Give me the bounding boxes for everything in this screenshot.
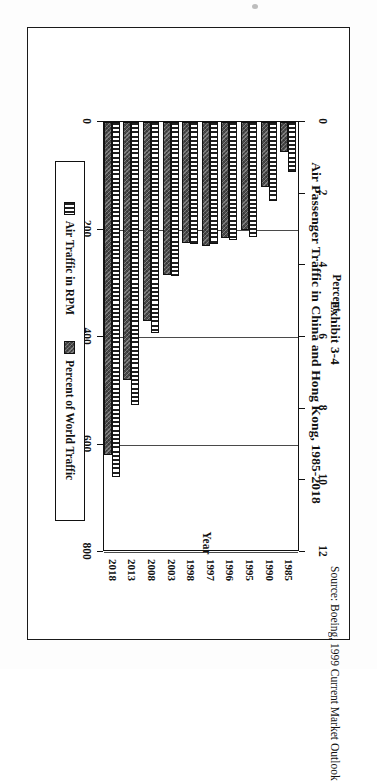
figure-frame: Exhibit 3-4 Air Passenger Traffic in Chi… — [27, 27, 350, 640]
figure-landscape-content: Exhibit 3-4 Air Passenger Traffic in Chi… — [30, 34, 348, 634]
category-label: 2018 — [107, 560, 119, 582]
bar-air-traffic-rpm — [250, 123, 258, 238]
axis-tick — [300, 552, 306, 553]
category-label: 2013 — [127, 560, 139, 582]
bar-percent-world-traffic — [261, 123, 269, 188]
bar-air-traffic-rpm — [191, 123, 199, 245]
bar-air-traffic-rpm — [171, 123, 179, 277]
bar-group — [163, 123, 179, 551]
bar-percent-world-traffic — [281, 123, 289, 153]
axis-tick — [300, 408, 306, 409]
percent-tick-label: 8 — [318, 405, 330, 411]
bar-percent-world-traffic — [183, 123, 191, 244]
legend-label-percent: Percent of World Traffic — [65, 361, 77, 481]
bar-air-traffic-rpm — [269, 123, 277, 202]
percent-tick-label: 12 — [318, 546, 330, 558]
axis-tick — [98, 122, 104, 123]
chart-legend: Air Traffic in RPM Percent of World Traf… — [56, 162, 86, 522]
legend-swatch-percent-icon — [65, 342, 76, 355]
axis-tick — [300, 193, 306, 194]
bar-group — [241, 123, 257, 551]
plot-area — [104, 122, 300, 552]
bar-group — [124, 123, 140, 551]
percent-tick-label: 0 — [318, 119, 330, 125]
category-label: 1985 — [284, 560, 296, 582]
bar-group — [104, 123, 120, 551]
bar-group — [222, 123, 238, 551]
percent-tick-label: 6 — [318, 334, 330, 340]
category-label: 1995 — [245, 560, 257, 582]
scan-speck — [252, 4, 258, 9]
legend-swatch-rpm-icon — [65, 202, 76, 215]
bar-percent-world-traffic — [163, 123, 171, 276]
bar-air-traffic-rpm — [230, 123, 238, 241]
axis-tick — [300, 480, 306, 481]
category-label: 1998 — [186, 560, 198, 582]
axis-tick — [300, 122, 306, 123]
bar-group — [143, 123, 159, 551]
axis-tick — [98, 444, 104, 445]
bar-air-traffic-rpm — [289, 123, 297, 173]
x-axis-title: Year — [202, 504, 214, 584]
percent-axis-ticks — [300, 122, 314, 552]
bar-air-traffic-rpm — [152, 123, 160, 334]
bar-air-traffic-rpm — [132, 123, 140, 406]
rpk-tick-label: 0 — [82, 119, 94, 125]
bar-percent-world-traffic — [143, 123, 151, 322]
category-label: 2003 — [166, 560, 178, 582]
category-label: 1990 — [264, 560, 276, 582]
axis-tick — [98, 229, 104, 230]
bar-percent-world-traffic — [202, 123, 210, 247]
category-label: 1996 — [225, 560, 237, 582]
bar-percent-world-traffic — [241, 123, 249, 231]
bar-group — [202, 123, 218, 551]
axis-tick — [98, 337, 104, 338]
legend-item-percent: Percent of World Traffic — [65, 342, 77, 481]
bar-group — [281, 123, 297, 551]
axis-tick — [300, 337, 306, 338]
bar-series-container — [105, 123, 299, 551]
bar-percent-world-traffic — [222, 123, 230, 239]
bar-percent-world-traffic — [124, 123, 132, 381]
percent-tick-label: 2 — [318, 190, 330, 196]
percent-tick-label: 4 — [318, 262, 330, 268]
category-label: 2008 — [147, 560, 159, 582]
bar-air-traffic-rpm — [112, 123, 120, 478]
rpk-tick-label: 800 — [82, 543, 94, 560]
axis-tick — [98, 552, 104, 553]
bar-air-traffic-rpm — [210, 123, 218, 245]
bar-group — [261, 123, 277, 551]
source-note: Source: Boeing, 1999 Current Market Outl… — [329, 566, 341, 781]
bar-percent-world-traffic — [104, 123, 112, 456]
axis-tick — [300, 265, 306, 266]
legend-label-rpm: Air Traffic in RPM — [65, 221, 77, 315]
legend-item-rpm: Air Traffic in RPM — [65, 202, 77, 315]
percent-tick-label: 10 — [318, 474, 330, 486]
bar-group — [183, 123, 199, 551]
percent-axis-title: Percent — [332, 234, 344, 354]
